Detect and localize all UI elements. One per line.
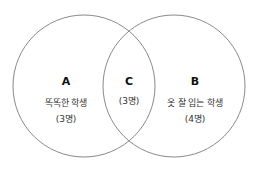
set-a-count: (3명) <box>56 112 77 125</box>
intersection-letter: C <box>125 75 133 88</box>
set-b-letter: B <box>191 75 199 88</box>
set-a-letter: A <box>62 75 71 88</box>
intersection-count: (3명) <box>119 94 140 107</box>
set-b-label: 옷 잘 입는 학생 <box>167 96 224 109</box>
set-b-count: (4명) <box>185 112 206 125</box>
circle-a <box>13 15 155 157</box>
set-a-label: 똑똑한 학생 <box>45 96 88 109</box>
